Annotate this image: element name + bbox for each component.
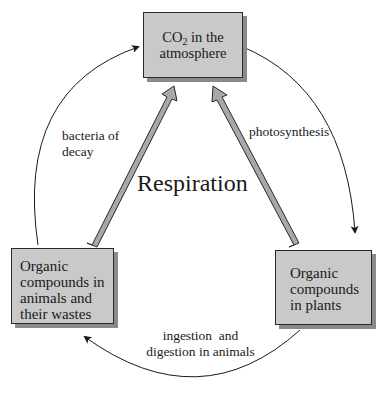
respiration-arrow-plants [212, 86, 299, 247]
respiration-title: Respiration [137, 170, 248, 197]
co2-atmosphere-node: CO2 in the atmosphere [143, 12, 243, 78]
respiration-arrow-animals [87, 86, 177, 247]
photosynthesis-label: photosynthesis [249, 124, 329, 140]
animal-compounds-node: Organic compounds in animals and their w… [11, 248, 114, 324]
decay-label: bacteria of decay [62, 128, 119, 160]
plant-compounds-node: Organic compounds in plants [275, 250, 372, 325]
ingestion-label: ingestion and digestion in animals [128, 328, 273, 360]
